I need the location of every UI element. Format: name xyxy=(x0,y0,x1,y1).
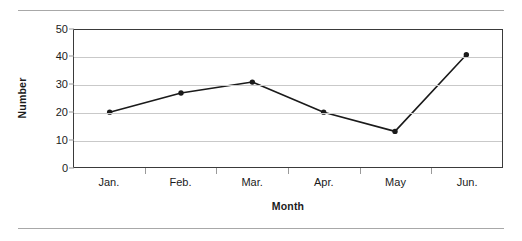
y-tick-mark xyxy=(69,84,74,85)
x-tick-mark xyxy=(360,168,361,174)
x-axis-title: Month xyxy=(73,200,503,212)
gridline xyxy=(74,85,502,86)
y-tick-label: 30 xyxy=(40,78,68,90)
y-tick-mark xyxy=(69,56,74,57)
x-tick-label: Feb. xyxy=(145,176,217,188)
x-tick-mark xyxy=(145,168,146,174)
y-tick-mark xyxy=(69,28,74,29)
data-line-svg xyxy=(74,30,502,167)
plot-area xyxy=(73,29,503,168)
y-tick-label: 10 xyxy=(40,134,68,146)
page-rule-top xyxy=(18,10,504,11)
data-point-marker xyxy=(392,128,397,133)
x-tick-label: Apr. xyxy=(288,176,360,188)
gridline xyxy=(74,113,502,114)
x-tick-mark xyxy=(288,168,289,174)
data-point-marker xyxy=(178,90,183,95)
page-rule-bottom xyxy=(18,228,504,229)
x-tick-mark xyxy=(431,168,432,174)
x-tick-label: Mar. xyxy=(216,176,288,188)
x-tick-label: Jun. xyxy=(431,176,503,188)
y-tick-mark xyxy=(69,111,74,112)
gridline xyxy=(74,141,502,142)
x-tick-mark xyxy=(216,168,217,174)
x-axis-tick-labels: Jan.Feb.Mar.Apr.MayJun. xyxy=(73,176,503,196)
data-point-marker xyxy=(250,79,255,84)
gridline xyxy=(74,57,502,58)
x-tick-label: May xyxy=(360,176,432,188)
y-axis-tick-labels: 01020304050 xyxy=(40,14,68,224)
y-tick-mark xyxy=(69,167,74,168)
y-axis-title: Number xyxy=(16,62,28,134)
data-point-marker xyxy=(464,51,469,56)
y-tick-label: 50 xyxy=(40,23,68,35)
y-tick-label: 20 xyxy=(40,106,68,118)
y-tick-label: 0 xyxy=(40,162,68,174)
y-tick-label: 40 xyxy=(40,50,68,62)
chart-page: Number 01020304050 Jan.Feb.Mar.Apr.MayJu… xyxy=(0,0,522,241)
line-chart-figure: Number 01020304050 Jan.Feb.Mar.Apr.MayJu… xyxy=(0,14,522,224)
y-tick-mark xyxy=(69,139,74,140)
x-tick-label: Jan. xyxy=(73,176,145,188)
data-line xyxy=(110,54,467,131)
